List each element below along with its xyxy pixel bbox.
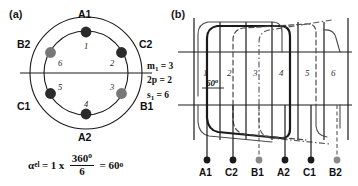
slot-number-1: 1 [84, 41, 88, 51]
b-slot-number-6: 6 [331, 68, 336, 78]
formula-fraction: 360o 6 [70, 152, 94, 177]
b-slot-number-4: 4 [279, 68, 284, 78]
formula-equals: = [42, 159, 48, 171]
coil-outline-bottom-right [316, 105, 327, 137]
ring-label-c1: C1 [17, 100, 30, 112]
formula-numerator: 360o [70, 152, 94, 166]
terminal-dot-c2 [230, 157, 237, 164]
formula-equals2: = [100, 159, 106, 171]
b-slot-number-3: 3 [253, 68, 258, 78]
conductor-dot-6 [45, 47, 56, 58]
terminal-label-c2: C2 [225, 167, 238, 178]
conductor-dot-1 [81, 27, 92, 38]
ring-label-c2: C2 [139, 38, 152, 50]
formula-result: 60 [108, 159, 119, 171]
formula-result-sup: o [119, 160, 123, 169]
param-m1: m1 = 3 [147, 60, 173, 74]
slot-number-3: 3 [110, 82, 114, 92]
slot-number-4: 4 [84, 99, 88, 109]
angle-annotation-60deg: 60o [206, 77, 218, 88]
formula-symbol-sub: el [34, 160, 39, 169]
terminal-label-b2: B2 [329, 167, 342, 178]
terminal-dot-b1 [256, 157, 263, 164]
formula-coefficient: 1 [51, 159, 57, 171]
terminal-dot-a2 [282, 157, 289, 164]
terminal-dot-b2 [334, 157, 341, 164]
slot-number-2: 2 [110, 58, 114, 68]
formula-denominator: 6 [77, 166, 87, 178]
terminal-label-b1: B1 [251, 167, 264, 178]
machine-parameters: m1 = 3 2p = 2 s1 = 6 [147, 60, 173, 103]
ring-label-b2: B2 [17, 38, 30, 50]
slot-number-6: 6 [58, 58, 62, 68]
param-s1: s1 = 6 [147, 89, 173, 103]
terminal-dot-a1 [204, 157, 211, 164]
conductor-dot-3 [116, 88, 127, 99]
conductor-dot-4 [81, 109, 92, 120]
b-slot-number-5: 5 [305, 68, 310, 78]
ring-label-a2: A2 [78, 131, 91, 143]
figure-container: (a) (b) A1 C2 B1 A2 C1 B2 1 2 3 4 [0, 0, 358, 186]
terminal-label-c1: C1 [303, 167, 316, 178]
slot-number-5: 5 [58, 82, 62, 92]
terminal-label-a1: A1 [199, 167, 212, 178]
terminal-dot-c1 [308, 157, 315, 164]
panel-b-developed-winding-diagram: m1 = 3 2p = 2 s1 = 6 .sl { stroke:#1a1a1… [172, 0, 358, 186]
coil-c-bottom-end [259, 105, 330, 144]
param-2p: 2p = 2 [147, 74, 173, 88]
electrical-angle-formula: αel = 1 x 360o 6 = 60o [28, 152, 123, 177]
terminal-label-a2: A2 [277, 167, 290, 178]
coil-c-top-end [259, 20, 332, 105]
winding-layout-drawing: .sl { stroke:#1a1a1a; fill:none; } .core… [172, 0, 358, 186]
ring-label-a1: A1 [78, 8, 91, 20]
coil-outline-top-right [324, 30, 340, 52]
b-slot-number-2: 2 [227, 68, 232, 78]
conductor-dot-5 [45, 88, 56, 99]
conductor-dot-2 [116, 47, 127, 58]
formula-times: x [59, 159, 65, 171]
